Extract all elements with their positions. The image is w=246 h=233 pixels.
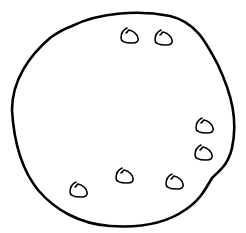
chocolate-chip-icon: [196, 118, 213, 133]
cookie-outline: [12, 13, 234, 227]
chocolate-chip-icon: [121, 28, 138, 43]
chocolate-chip-icon: [155, 30, 172, 45]
chocolate-chip-icon: [70, 182, 87, 197]
cookie-drawing: [0, 0, 246, 233]
chocolate-chip-icon: [166, 174, 183, 189]
chocolate-chip-icon: [195, 145, 212, 160]
chocolate-chip-icon: [116, 168, 133, 183]
